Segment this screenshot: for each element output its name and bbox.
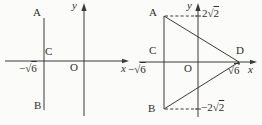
left-y-axis-label: y	[72, 0, 77, 11]
right-sqrt6-radicand: 6	[234, 64, 240, 76]
right-point-b-label: B	[148, 103, 155, 114]
triangle-side-ad	[164, 16, 239, 62]
right-x-axis-label: x	[248, 64, 253, 75]
left-neg-sqrt6-label: −√6	[19, 63, 37, 74]
right-neg-sqrt6-label: −√6	[128, 64, 146, 75]
right-neg-2sqrt2-label: −2√2	[201, 102, 224, 113]
left-point-b-label: B	[34, 100, 41, 111]
left-origin-label: O	[70, 62, 78, 73]
math-figure: A B C O x y −√6 A B C D O x y 2√2 −2√2 −…	[0, 0, 262, 125]
right-2sqrt2-prefix: 2√	[202, 7, 214, 19]
right-neg-sqrt6-radicand: 6	[140, 63, 146, 75]
right-neg-2sqrt2-radicand: 2	[219, 101, 225, 113]
right-2sqrt2-radicand: 2	[214, 7, 220, 19]
right-neg-2sqrt2-prefix: −2√	[201, 101, 219, 113]
left-point-c-label: C	[45, 46, 52, 57]
right-y-axis-label: y	[187, 0, 192, 11]
right-y-arrowhead-icon	[195, 3, 200, 11]
left-neg-sqrt6-radicand: 6	[31, 62, 37, 74]
right-point-d-label: D	[236, 45, 244, 56]
left-point-a-label: A	[33, 7, 41, 18]
right-point-c-label: C	[149, 45, 156, 56]
right-2sqrt2-label: 2√2	[202, 8, 219, 19]
right-neg-sqrt6-prefix: −√	[128, 63, 140, 75]
left-y-arrowhead-icon	[81, 3, 86, 11]
right-origin-label: O	[184, 63, 192, 74]
right-sqrt6-label: √6	[228, 65, 240, 76]
right-point-a-label: A	[149, 7, 157, 18]
left-neg-sqrt6-prefix: −√	[19, 62, 31, 74]
left-x-axis-label: x	[121, 63, 126, 74]
